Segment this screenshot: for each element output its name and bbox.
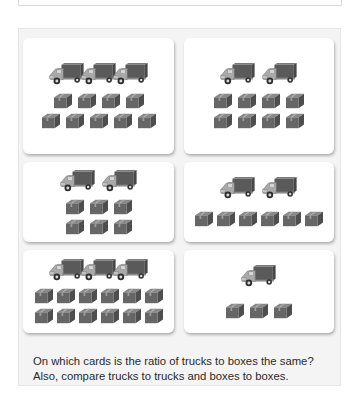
box-icon [64,198,86,216]
box-icon [136,112,158,130]
box-row [223,302,295,320]
box-icon [236,112,258,130]
box-icon [193,210,215,228]
box-icon [121,307,143,325]
truck-icon [261,176,299,200]
box-icon [99,287,121,305]
box-icon [284,92,306,110]
box-row [33,307,165,325]
box-icon [33,307,55,325]
card-6[interactable] [184,250,334,333]
top-empty-box [18,0,342,6]
box-icon [112,112,134,130]
box-icon [88,218,110,236]
truck-icon [219,176,257,200]
box-icon [112,198,134,216]
card-5[interactable] [23,250,174,333]
box-icon [76,92,98,110]
box-icon [237,210,259,228]
box-icon [215,210,237,228]
box-row [51,92,147,110]
box-icon [224,302,246,320]
box-icon [272,302,294,320]
box-row [63,218,135,236]
truck-icon [59,169,97,193]
box-icon [55,287,77,305]
box-icon [121,287,143,305]
truck-group [217,62,301,86]
box-icon [33,287,55,305]
truck-icon [261,62,299,86]
box-icon [52,92,74,110]
box-icon [248,302,270,320]
box-icon [212,112,234,130]
box-icon [99,307,121,325]
truck-group [217,176,301,200]
question-line-2: Also, compare trucks to trucks and boxes… [33,369,333,384]
truck-icon [101,169,139,193]
box-icon [281,210,303,228]
truck-group [57,169,141,193]
box-icon [303,210,325,228]
box-icon [88,112,110,130]
box-icon [77,307,99,325]
box-icon [259,210,281,228]
box-icon [124,92,146,110]
box-icon [88,198,110,216]
box-row [39,112,159,130]
box-icon [143,287,165,305]
truck-icon [112,258,150,282]
box-icon [260,92,282,110]
card-4[interactable] [184,162,334,242]
box-icon [64,218,86,236]
question-line-1: On which cards is the ratio of trucks to… [33,354,333,369]
truck-group [51,62,147,86]
truck-group [243,264,275,288]
box-icon [55,307,77,325]
box-icon [236,92,258,110]
card-3[interactable] [23,162,174,242]
box-row [211,92,307,110]
truck-group [51,258,147,282]
box-icon [284,112,306,130]
box-row [33,287,165,305]
box-row [211,112,307,130]
card-1[interactable] [23,38,174,154]
box-icon [260,112,282,130]
truck-icon [112,62,150,86]
box-icon [143,307,165,325]
question-text: On which cards is the ratio of trucks to… [33,354,333,384]
box-row [63,198,135,216]
truck-icon [240,264,278,288]
box-icon [77,287,99,305]
truck-icon [219,62,257,86]
card-2[interactable] [184,38,334,154]
box-row [193,210,325,228]
box-icon [100,92,122,110]
box-icon [64,112,86,130]
box-icon [212,92,234,110]
box-icon [40,112,62,130]
box-icon [112,218,134,236]
